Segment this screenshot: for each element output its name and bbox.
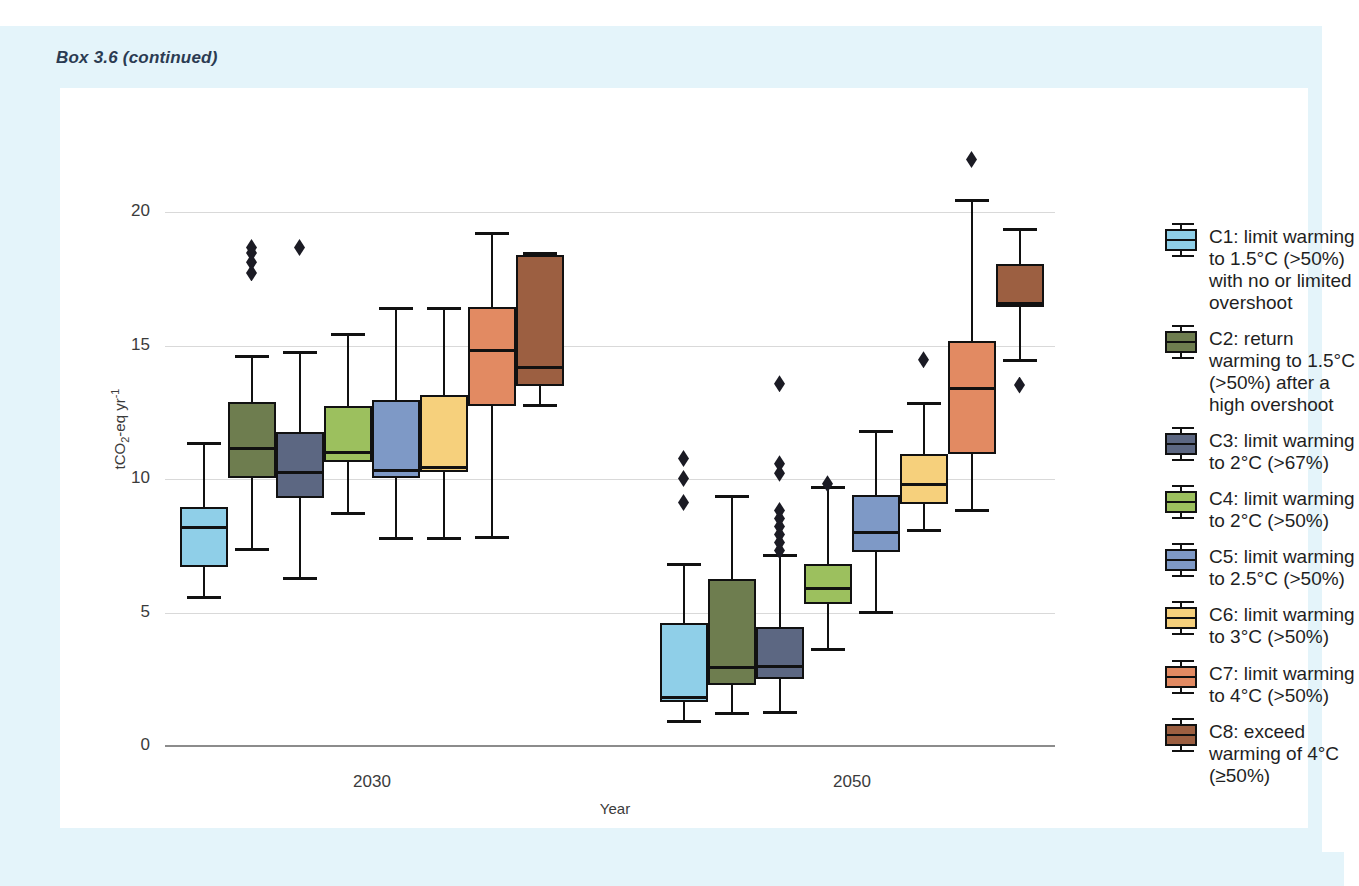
whisker-lower xyxy=(827,604,829,651)
outlier-marker xyxy=(822,475,833,492)
legend-label-c3: C3: limit warming to 2°C (>67%) xyxy=(1209,430,1359,474)
whisker-cap-upper xyxy=(235,355,269,358)
legend-label-c1: C1: limit warming to 1.5°C (>50%) with n… xyxy=(1209,226,1359,314)
whisker-lower xyxy=(971,454,973,513)
legend-swatch-c7-icon xyxy=(1165,666,1197,688)
whisker-upper xyxy=(971,199,973,342)
median-line xyxy=(660,696,708,699)
median-line xyxy=(516,366,564,369)
legend-label-c7: C7: limit warming to 4°C (>50%) xyxy=(1209,663,1359,707)
box-iqr xyxy=(996,264,1044,307)
box-iqr xyxy=(276,432,324,497)
outlier-marker xyxy=(678,494,689,511)
median-line xyxy=(468,349,516,352)
legend-label-c4: C4: limit warming to 2°C (>50%) xyxy=(1209,488,1359,532)
whisker-cap-lower xyxy=(331,512,365,515)
outlier-marker xyxy=(918,351,929,368)
whisker-upper xyxy=(491,232,493,307)
whisker-cap-lower xyxy=(1003,359,1037,362)
whisker-cap-lower xyxy=(427,537,461,540)
whisker-cap-lower xyxy=(235,548,269,551)
median-line xyxy=(372,469,420,472)
outlier-marker xyxy=(678,470,689,487)
box-iqr xyxy=(948,341,996,453)
legend-item-c2[interactable]: C2: return warming to 1.5°C (>50%) after… xyxy=(1165,328,1359,416)
gridline xyxy=(165,212,1055,213)
page-background-bottom xyxy=(0,852,1344,886)
x-axis-label: Year xyxy=(515,800,715,817)
whisker-cap-upper xyxy=(907,402,941,405)
whisker-cap-lower xyxy=(667,720,701,723)
legend-swatch-c3-icon xyxy=(1165,433,1197,455)
whisker-lower xyxy=(923,504,925,532)
whisker-cap-upper xyxy=(283,351,317,354)
legend-swatch-c1-icon xyxy=(1165,229,1197,251)
whisker-cap-lower xyxy=(283,577,317,580)
box-title: Box 3.6 (continued) xyxy=(56,48,218,68)
gridline xyxy=(165,346,1055,347)
legend-item-c7[interactable]: C7: limit warming to 4°C (>50%) xyxy=(1165,663,1359,707)
whisker-upper xyxy=(683,563,685,623)
box-iqr xyxy=(420,395,468,472)
whisker-lower xyxy=(203,567,205,599)
box-iqr xyxy=(900,454,948,505)
chart-plot-area: 05101520 20302050 tCO2-eq yr-1 Year xyxy=(60,88,1308,828)
whisker-cap-upper xyxy=(379,307,413,310)
median-line xyxy=(948,387,996,390)
legend-item-c4[interactable]: C4: limit warming to 2°C (>50%) xyxy=(1165,488,1359,532)
whisker-cap-upper xyxy=(715,495,749,498)
whisker-cap-lower xyxy=(475,536,509,539)
whisker-lower xyxy=(347,462,349,515)
whisker-lower xyxy=(251,478,253,551)
box-iqr xyxy=(660,623,708,702)
whisker-upper xyxy=(731,495,733,579)
whisker-lower xyxy=(875,552,877,613)
whisker-cap-lower xyxy=(379,537,413,540)
whisker-lower xyxy=(299,498,301,581)
whisker-cap-lower xyxy=(523,404,557,407)
x-axis-line xyxy=(165,745,1055,747)
legend-item-c6[interactable]: C6: limit warming to 3°C (>50%) xyxy=(1165,604,1359,648)
box-iqr xyxy=(756,627,804,679)
median-line xyxy=(708,666,756,669)
whisker-cap-lower xyxy=(811,648,845,651)
legend-item-c3[interactable]: C3: limit warming to 2°C (>67%) xyxy=(1165,430,1359,474)
box-iqr xyxy=(852,495,900,552)
whisker-lower xyxy=(731,685,733,716)
box-iqr xyxy=(180,507,228,567)
whisker-upper xyxy=(827,486,829,565)
whisker-upper xyxy=(347,333,349,405)
whisker-upper xyxy=(923,402,925,454)
median-line xyxy=(228,447,276,450)
median-line xyxy=(900,483,948,486)
figure-panel: 05101520 20302050 tCO2-eq yr-1 Year C1: … xyxy=(60,88,1308,828)
whisker-upper xyxy=(1019,228,1021,264)
legend-item-c8[interactable]: C8: exceed warming of 4°C (≥50%) xyxy=(1165,721,1359,787)
whisker-cap-upper xyxy=(187,442,221,445)
gridline xyxy=(165,613,1055,614)
whisker-cap-upper xyxy=(859,430,893,433)
legend-label-c8: C8: exceed warming of 4°C (≥50%) xyxy=(1209,721,1359,787)
legend-item-c5[interactable]: C5: limit warming to 2.5°C (>50%) xyxy=(1165,546,1359,590)
median-line xyxy=(996,302,1044,305)
median-line xyxy=(324,451,372,454)
whisker-lower xyxy=(491,406,493,540)
whisker-cap-upper xyxy=(475,232,509,235)
whisker-lower xyxy=(443,472,445,540)
whisker-upper xyxy=(443,307,445,395)
whisker-cap-upper xyxy=(1003,228,1037,231)
chart-legend: C1: limit warming to 1.5°C (>50%) with n… xyxy=(1165,226,1359,801)
legend-label-c6: C6: limit warming to 3°C (>50%) xyxy=(1209,604,1359,648)
legend-swatch-c2-icon xyxy=(1165,331,1197,353)
outlier-marker xyxy=(774,375,785,392)
box-iqr xyxy=(804,564,852,604)
outlier-marker xyxy=(1014,377,1025,394)
legend-swatch-c4-icon xyxy=(1165,491,1197,513)
median-line xyxy=(852,531,900,534)
whisker-lower xyxy=(1019,307,1021,362)
legend-item-c1[interactable]: C1: limit warming to 1.5°C (>50%) with n… xyxy=(1165,226,1359,314)
box-iqr xyxy=(228,402,276,478)
whisker-cap-lower xyxy=(955,509,989,512)
whisker-cap-upper xyxy=(955,199,989,202)
x-axis-tick-label: 2030 xyxy=(312,772,432,792)
